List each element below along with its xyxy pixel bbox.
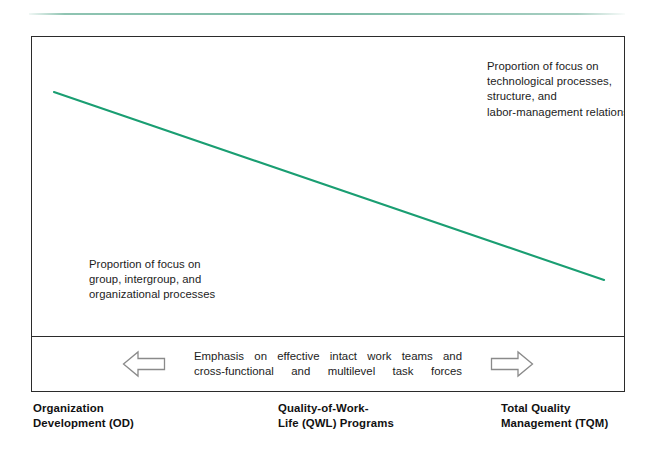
axis-label-quality-of-work-life: Quality-of-Work- Life (QWL) Programs [278,401,478,431]
arrow-left-icon [122,349,166,379]
plot-area: Proportion of focus on technological pro… [32,37,624,336]
annotation-technological-focus: Proportion of focus on technological pro… [487,59,624,120]
arrow-right-icon [490,349,534,379]
diagram-frame: Proportion of focus on technological pro… [31,36,625,392]
top-decorative-rule [29,13,625,15]
trend-line-segment [54,92,604,280]
emphasis-caption: Emphasis on effective intact work teams … [194,349,462,378]
annotation-group-process-focus: Proportion of focus on group, intergroup… [89,257,304,303]
emphasis-band: Emphasis on effective intact work teams … [32,337,624,390]
axis-label-total-quality-management: Total Quality Management (TQM) [501,401,655,431]
axis-labels: Organization Development (OD) Quality-of… [31,401,625,441]
axis-label-organization-development: Organization Development (OD) [33,401,233,431]
